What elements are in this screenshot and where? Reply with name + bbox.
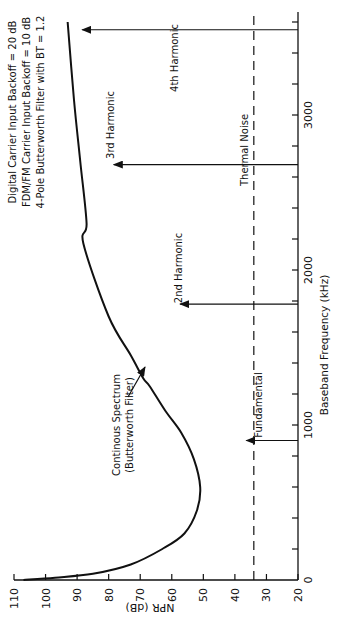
annotation-line-3: 4-Pole Butterworth Filter with BT = 1.2 bbox=[35, 16, 46, 209]
frequency-tick-label: 0 bbox=[302, 577, 315, 584]
npr-tick-label: 70 bbox=[134, 588, 147, 602]
npr-tick-label: 110 bbox=[8, 588, 21, 609]
fundamental-label: Fundamental bbox=[253, 372, 264, 437]
x-axis-label: Baseband Frequency (kHz) bbox=[318, 275, 330, 416]
curve-label-line1: Continous Spectrum bbox=[111, 374, 122, 476]
second-harmonic-label: 2nd Harmonic bbox=[173, 233, 184, 303]
npr-tick-label: 40 bbox=[229, 588, 242, 602]
frequency-tick-label: 1000 bbox=[302, 411, 315, 439]
annotation-line-1: Digital Carrier Input Backoff = 20 dB bbox=[7, 20, 18, 203]
curve-label-line2: (Butterworth Filter) bbox=[124, 377, 135, 473]
npr-tick-label: 20 bbox=[292, 588, 305, 602]
plot-area bbox=[14, 12, 298, 580]
npr-tick-label: 50 bbox=[197, 588, 210, 602]
npr-tick-label: 100 bbox=[40, 588, 53, 609]
fourth-harmonic-label: 4th Harmonic bbox=[169, 24, 180, 92]
npr-chart: 2030405060708090100110NPR (dB)0100020003… bbox=[0, 0, 338, 631]
frequency-tick-label: 3000 bbox=[302, 101, 315, 129]
npr-tick-label: 60 bbox=[166, 588, 179, 602]
annotation-line-2: FDM/FM Carrier Input Backoff = 10 dB bbox=[21, 17, 32, 207]
npr-tick-label: 30 bbox=[260, 588, 273, 602]
frequency-tick-label: 2000 bbox=[302, 256, 315, 284]
third-harmonic-label: 3rd Harmonic bbox=[105, 91, 116, 159]
y-axis-label: NPR (dB) bbox=[125, 601, 174, 614]
npr-tick-label: 90 bbox=[71, 588, 84, 602]
chart-text: 2030405060708090100110NPR (dB)0100020003… bbox=[7, 16, 330, 614]
npr-tick-label: 80 bbox=[103, 588, 116, 602]
thermal-noise-label: Thermal Noise bbox=[239, 114, 250, 187]
